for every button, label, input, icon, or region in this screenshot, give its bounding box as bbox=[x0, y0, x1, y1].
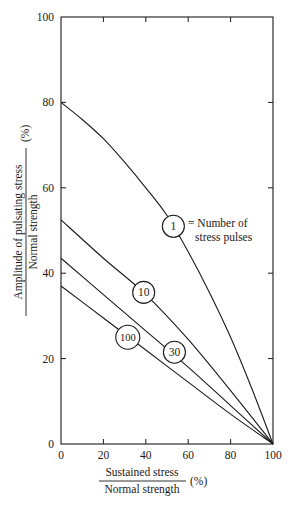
curve-label-10: 10 bbox=[133, 281, 155, 303]
curve-label-100: 100 bbox=[116, 325, 140, 349]
y-tick-label: 60 bbox=[43, 182, 55, 194]
x-axis-label-unit: (%) bbox=[190, 475, 207, 488]
x-tick-label: 80 bbox=[225, 449, 237, 461]
y-axis-label-numerator: Amplitude of pulsating stress bbox=[12, 164, 25, 300]
x-axis-label-denominator: Normal strength bbox=[104, 483, 179, 496]
curve-1-pulses bbox=[61, 102, 273, 444]
stress-pulse-chart: 020406080100020406080100 11030100 = Numb… bbox=[0, 0, 294, 505]
x-tick-label: 20 bbox=[98, 449, 110, 461]
legend-line-2: stress pulses bbox=[195, 231, 253, 244]
y-axis-label: Amplitude of pulsating stress Normal str… bbox=[12, 125, 40, 316]
curve-labels: 11030100 bbox=[116, 215, 186, 363]
curve-label-text: 10 bbox=[138, 286, 150, 298]
data-curves bbox=[61, 102, 273, 444]
y-tick-label: 80 bbox=[43, 96, 55, 108]
y-axis-label-denominator: Normal strength bbox=[27, 194, 40, 269]
y-tick-label: 20 bbox=[43, 353, 55, 365]
y-tick-label: 40 bbox=[43, 267, 55, 279]
curve-label-30: 30 bbox=[163, 341, 185, 363]
curve-label-text: 100 bbox=[120, 332, 136, 343]
curve-100-pulses bbox=[61, 286, 273, 444]
curve-10-pulses bbox=[61, 220, 273, 444]
x-tick-label: 40 bbox=[140, 449, 152, 461]
curve-label-text: 30 bbox=[169, 346, 181, 358]
curve-label-1: 1 bbox=[162, 215, 184, 237]
x-tick-label: 0 bbox=[58, 449, 64, 461]
legend-annotation: = Number of stress pulses bbox=[188, 217, 253, 244]
x-tick-label: 100 bbox=[264, 449, 282, 461]
legend-line-1: = Number of bbox=[188, 217, 248, 229]
y-tick-label: 100 bbox=[37, 11, 55, 23]
curve-label-text: 1 bbox=[170, 220, 176, 232]
y-tick-label: 0 bbox=[48, 438, 54, 450]
x-axis-label: Sustained stress Normal strength (%) bbox=[99, 466, 207, 496]
y-axis-label-unit: (%) bbox=[19, 125, 32, 142]
x-axis-label-numerator: Sustained stress bbox=[105, 466, 179, 478]
x-tick-label: 60 bbox=[182, 449, 194, 461]
